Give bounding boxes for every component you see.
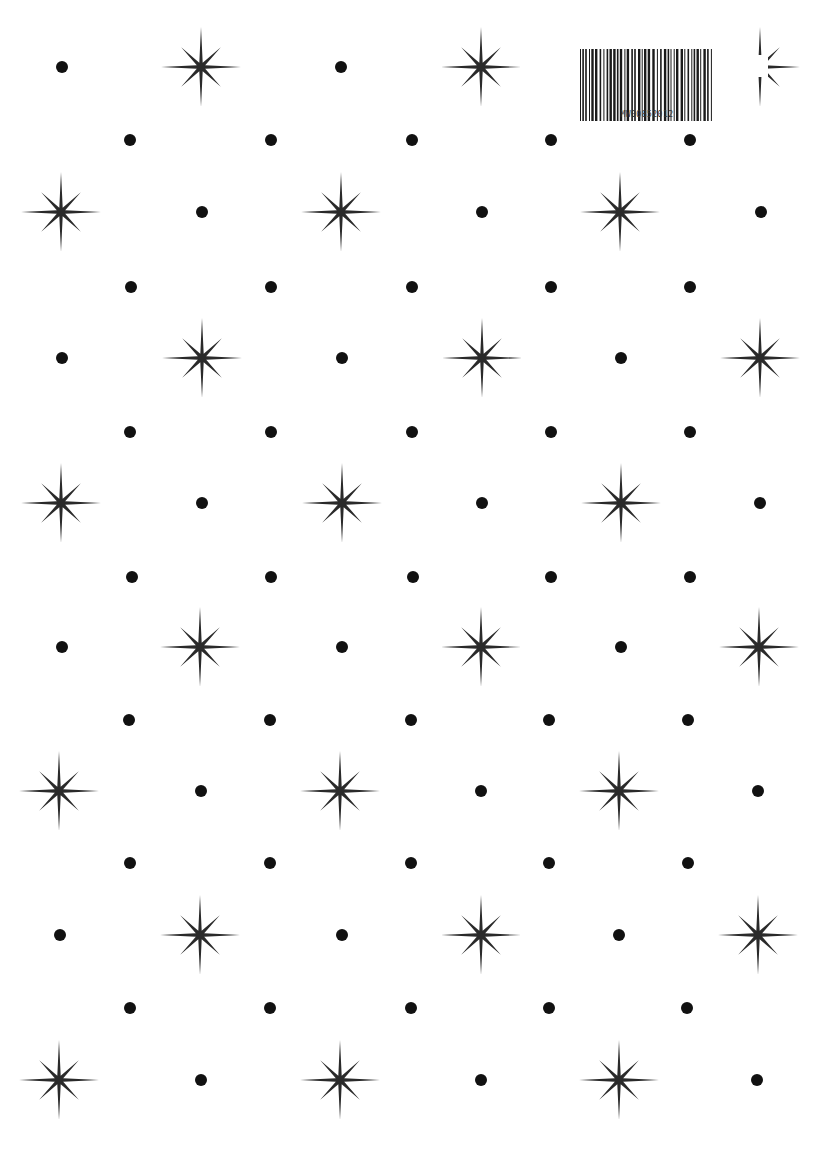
dot-icon [543,1002,555,1014]
star-icon [301,172,381,252]
star-pattern-sheet [0,0,826,1151]
paper-cover-patch [718,55,768,77]
pattern-layer [19,27,800,1120]
dot-icon [54,929,66,941]
barcode-label: MW00852012 [578,110,716,119]
dot-icon [405,857,417,869]
dot-icon [476,497,488,509]
dot-icon [264,714,276,726]
dot-icon [545,571,557,583]
dot-icon [125,281,137,293]
dot-icon [265,134,277,146]
dot-icon [545,134,557,146]
dot-icon [754,497,766,509]
star-icon [581,463,661,543]
dot-icon [336,929,348,941]
dot-icon [123,714,135,726]
star-icon [162,318,242,398]
dot-icon [475,785,487,797]
dot-icon [476,206,488,218]
dot-icon [682,714,694,726]
dot-icon [407,571,419,583]
dot-icon [56,352,68,364]
dot-icon [684,134,696,146]
star-icon [160,895,240,975]
dot-icon [406,426,418,438]
star-icon [300,751,380,831]
dot-icon [264,1002,276,1014]
star-icon [19,751,99,831]
dot-icon [265,426,277,438]
dot-icon [336,352,348,364]
star-icon [160,607,240,687]
dot-icon [124,134,136,146]
star-icon [441,607,521,687]
dot-icon [406,134,418,146]
dot-icon [545,281,557,293]
star-icon [720,318,800,398]
dot-icon [195,1074,207,1086]
dot-icon [336,641,348,653]
star-icon [718,895,798,975]
dot-icon [124,1002,136,1014]
dot-icon [265,571,277,583]
star-icon [719,607,799,687]
star-icon [21,463,101,543]
dot-icon [265,281,277,293]
dot-icon [126,571,138,583]
dot-icon [682,857,694,869]
dot-icon [335,61,347,73]
dot-icon [264,857,276,869]
dot-icon [755,206,767,218]
star-icon [580,172,660,252]
dot-icon [752,785,764,797]
dot-icon [475,1074,487,1086]
star-icon [21,172,101,252]
dot-icon [684,426,696,438]
dot-icon [543,714,555,726]
dot-icon [543,857,555,869]
paper-cover-patch [740,77,754,117]
dot-icon [681,1002,693,1014]
dot-icon [615,352,627,364]
dot-icon [406,281,418,293]
star-icon [300,1040,380,1120]
dot-icon [405,714,417,726]
dot-icon [196,497,208,509]
dot-icon [56,61,68,73]
star-icon [442,318,522,398]
dot-icon [405,1002,417,1014]
dot-icon [124,857,136,869]
dot-icon [751,1074,763,1086]
star-icon [579,751,659,831]
dot-icon [615,641,627,653]
dot-icon [124,426,136,438]
star-icon [579,1040,659,1120]
dot-icon [196,206,208,218]
star-icon [19,1040,99,1120]
star-icon [302,463,382,543]
star-icon [441,27,521,107]
dot-icon [195,785,207,797]
dot-icon [545,426,557,438]
star-icon [161,27,241,107]
star-icon [441,895,521,975]
dot-icon [684,281,696,293]
dot-icon [56,641,68,653]
dot-icon [684,571,696,583]
dot-icon [613,929,625,941]
